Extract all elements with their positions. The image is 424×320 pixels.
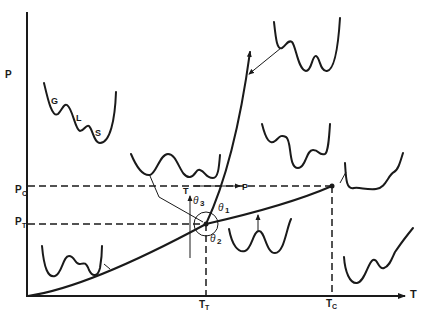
svg-text:T: T (22, 222, 27, 229)
potential-well-triple (131, 154, 220, 178)
label-s: S (95, 128, 101, 138)
sublimation-pointer (104, 264, 110, 269)
y-axis-label: P (5, 69, 12, 80)
x-axis-label: T (410, 288, 417, 300)
svg-text:θ: θ (193, 195, 199, 206)
label-g: G (51, 96, 58, 106)
y-tick-pc: P C (15, 184, 27, 197)
svg-text:1: 1 (225, 206, 230, 215)
potential-well-gas (42, 246, 102, 276)
critical-point (330, 184, 335, 189)
potential-well-melting-upper (274, 18, 340, 71)
svg-text:θ: θ (210, 233, 216, 244)
svg-text:P: P (15, 184, 22, 195)
triple-point (204, 222, 209, 227)
potential-well-liquid (262, 124, 330, 168)
label-l: L (76, 113, 82, 123)
sublimation-curve (28, 224, 206, 296)
x-tick-tt: T T (199, 299, 210, 311)
theta-3-label: θ 3 (193, 195, 205, 208)
potential-well-lower-right (344, 228, 413, 283)
melting-pointer-arrow (249, 48, 281, 74)
melting-curve (206, 52, 250, 224)
vaporization-curve (206, 186, 332, 224)
inset-t-label: T (183, 186, 189, 196)
potential-well-supercritical (345, 153, 403, 189)
x-tick-tc: T C (326, 298, 337, 310)
inset-p-label: P (242, 182, 248, 192)
theta-1-label: θ 1 (218, 202, 230, 215)
svg-text:C: C (332, 303, 337, 310)
svg-text:C: C (22, 190, 27, 197)
svg-text:2: 2 (217, 237, 222, 246)
svg-text:3: 3 (200, 199, 205, 208)
theta-2-label: θ 2 (210, 233, 222, 246)
potential-well-lower-middle (229, 219, 291, 253)
svg-text:θ: θ (218, 202, 224, 213)
svg-text:T: T (205, 304, 210, 311)
critical-pointer-arrow (340, 172, 346, 183)
svg-text:P: P (15, 216, 22, 227)
phase-diagram: P T P C P T T T T C T P θ 3 θ 1 θ 2 (0, 0, 424, 320)
y-tick-pt: P T (15, 216, 27, 229)
